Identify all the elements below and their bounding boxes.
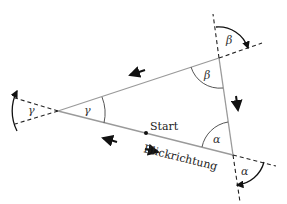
arrow-left-icon <box>130 70 145 75</box>
start-label: Start <box>150 120 179 133</box>
arrow-down-icon <box>236 96 238 110</box>
arrow-left-lower-icon <box>103 138 117 142</box>
diagram-canvas: Start Blickrichtung β β α α γ γ <box>0 0 287 204</box>
alpha-exterior-label: α <box>241 165 249 178</box>
side-gamma-beta <box>58 58 219 111</box>
alpha-interior-label: α <box>213 133 221 146</box>
gamma-interior-label: γ <box>84 104 91 117</box>
beta-interior-label: β <box>203 69 210 82</box>
start-point <box>144 131 148 135</box>
beta-exterior-label: β <box>225 34 232 47</box>
side-beta-alpha <box>219 58 233 155</box>
gamma-exterior-label: γ <box>28 104 35 117</box>
direction-label: Blickrichtung <box>142 142 219 173</box>
triangle-diagram: Start Blickrichtung β β α α γ γ <box>0 0 287 204</box>
